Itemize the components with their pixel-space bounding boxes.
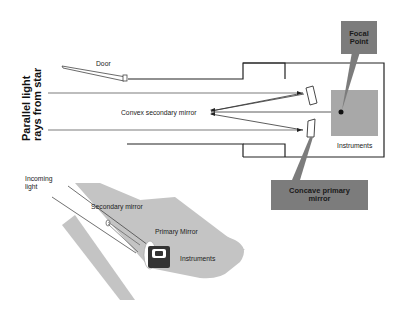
- door-icon: [62, 66, 127, 81]
- convex-secondary-mirror-label: Convex secondary mirror: [121, 108, 196, 117]
- parallel-light-rays-label: Parallel light rays from star: [21, 77, 43, 141]
- instruments-box: [331, 90, 378, 136]
- incoming-light-line2: light: [25, 183, 52, 191]
- concave-primary-mirror-callout: Concave primary mirror: [271, 180, 368, 210]
- primary-mirror-shape: [307, 119, 315, 137]
- instruments-label: Instruments: [337, 141, 372, 150]
- inset-secondary-mirror-label: Secondary mirror: [91, 202, 143, 211]
- side-label-line2: rays from star: [32, 77, 43, 141]
- focal-point-callout: Focal Point: [341, 21, 377, 54]
- secondary-mirror-shape: [306, 86, 317, 105]
- concave-primary-label-line2: mirror: [308, 195, 330, 203]
- primary-callout-pointer: [292, 137, 313, 180]
- inset-instruments-label: Instruments: [180, 254, 215, 263]
- incoming-light-label: Incoming light: [25, 175, 52, 191]
- reflected-rays: [211, 93, 342, 130]
- inset-telescope: [52, 183, 245, 300]
- door-label: Door: [96, 59, 111, 68]
- inset-primary-mirror-label: Primary Mirror: [155, 227, 198, 236]
- focal-point-dot: [339, 110, 344, 115]
- focal-point-label-line2: Point: [350, 38, 369, 46]
